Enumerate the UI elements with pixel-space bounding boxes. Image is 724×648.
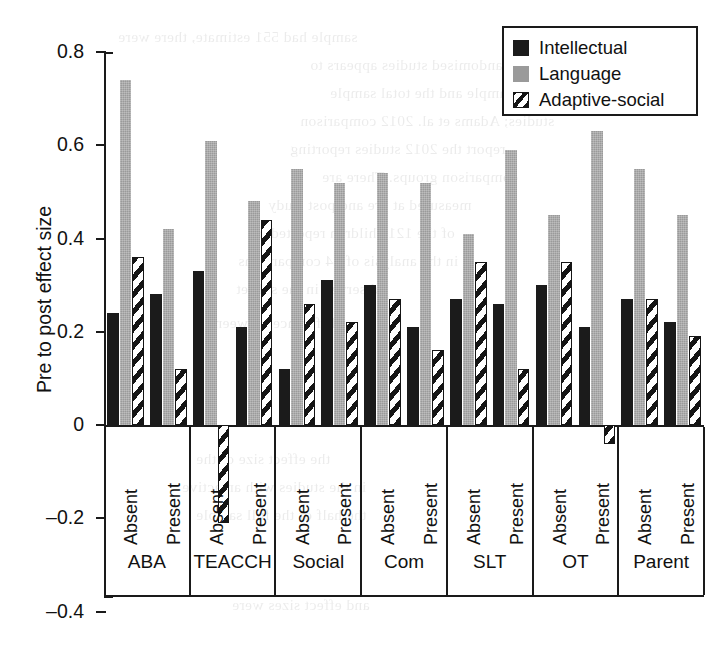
- bar-adaptive-social: [346, 322, 358, 425]
- subcategory-label-present: Present: [507, 483, 528, 545]
- bar-language: [120, 80, 132, 425]
- legend-item-adaptive-social: Adaptive-social: [513, 87, 696, 113]
- bar-adaptive-social: [518, 369, 530, 425]
- group-label-slt: SLT: [447, 551, 533, 573]
- bar-intellectual: [279, 369, 291, 425]
- bar-language: [591, 131, 603, 425]
- bar-adaptive-social: [475, 262, 487, 425]
- bar-intellectual: [193, 271, 205, 425]
- legend-swatch-intellectual-icon: [513, 40, 529, 56]
- group-label-teacch: TEACCH: [190, 551, 276, 573]
- subcategory-label-present: Present: [335, 483, 356, 545]
- subcategory-label-absent: Absent: [550, 489, 571, 545]
- bar-chart: Pre to post effect size 0.80.60.40.20–0.…: [0, 0, 724, 648]
- subcategory-label-absent: Absent: [464, 489, 485, 545]
- subcategory-label-present: Present: [164, 483, 185, 545]
- bar-adaptive-social: [261, 220, 273, 425]
- legend-label-intellectual: Intellectual: [539, 39, 627, 58]
- bar-intellectual: [364, 285, 376, 425]
- category-band-bottom-rule: [104, 595, 704, 597]
- subcategory-label-absent: Absent: [293, 489, 314, 545]
- bar-language: [677, 215, 689, 425]
- bar-language: [420, 183, 432, 425]
- group-label-com: Com: [361, 551, 447, 573]
- legend-label-adaptive-social: Adaptive-social: [539, 91, 664, 110]
- bar-language: [205, 141, 217, 425]
- bar-adaptive-social: [175, 369, 187, 425]
- bar-intellectual: [107, 313, 119, 425]
- legend-item-intellectual: Intellectual: [513, 35, 696, 61]
- subcategory-label-present: Present: [593, 483, 614, 545]
- bar-adaptive-social: [389, 299, 401, 425]
- subcategory-label-absent: Absent: [207, 489, 228, 545]
- group-label-ot: OT: [533, 551, 619, 573]
- bar-adaptive-social: [646, 299, 658, 425]
- bar-intellectual: [450, 299, 462, 425]
- subcategory-label-absent: Absent: [378, 489, 399, 545]
- legend-item-language: Language: [513, 61, 696, 87]
- bar-language: [548, 215, 560, 425]
- legend: Intellectual Language Adaptive-social: [502, 26, 698, 116]
- group-label-parent: Parent: [618, 551, 704, 573]
- bar-language: [163, 229, 175, 425]
- bar-intellectual: [407, 327, 419, 425]
- bar-language: [291, 169, 303, 425]
- group-label-aba: ABA: [104, 551, 190, 573]
- bar-language: [463, 234, 475, 425]
- bar-intellectual: [621, 299, 633, 425]
- bar-language: [634, 169, 646, 425]
- bar-language: [505, 150, 517, 425]
- subcategory-label-present: Present: [421, 483, 442, 545]
- bar-intellectual: [321, 280, 333, 425]
- bar-adaptive-social: [304, 304, 316, 425]
- bar-intellectual: [664, 322, 676, 425]
- subcategory-label-absent: Absent: [635, 489, 656, 545]
- bar-language: [334, 183, 346, 425]
- bar-intellectual: [493, 304, 505, 425]
- legend-swatch-adaptive-social-icon: [513, 92, 529, 108]
- bar-adaptive-social: [689, 336, 701, 425]
- bar-adaptive-social: [561, 262, 573, 425]
- subcategory-label-absent: Absent: [121, 489, 142, 545]
- bar-intellectual: [236, 327, 248, 425]
- bar-intellectual: [150, 294, 162, 425]
- subcategory-label-present: Present: [250, 483, 271, 545]
- bar-intellectual: [579, 327, 591, 425]
- group-label-social: Social: [275, 551, 361, 573]
- subcategory-label-present: Present: [678, 483, 699, 545]
- bar-language: [377, 173, 389, 425]
- bar-adaptive-social: [432, 350, 444, 425]
- legend-swatch-language-icon: [513, 66, 529, 82]
- bar-intellectual: [536, 285, 548, 425]
- legend-label-language: Language: [539, 65, 621, 84]
- bar-adaptive-social: [132, 257, 144, 425]
- bar-language: [248, 201, 260, 425]
